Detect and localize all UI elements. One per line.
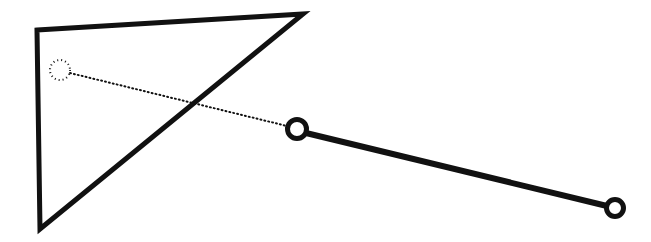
right-node [607, 200, 624, 217]
middle-node [288, 120, 307, 139]
diagram-canvas [0, 0, 651, 242]
line-art-figure [0, 0, 651, 242]
figure-background [0, 0, 651, 242]
